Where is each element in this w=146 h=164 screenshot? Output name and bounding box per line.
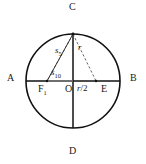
point-label-f-subscript: 1 (44, 89, 47, 96)
point-label-d: D (69, 146, 76, 156)
point-dot-e (95, 80, 97, 82)
point-label-o: O (65, 84, 72, 94)
radius-label: r (78, 43, 82, 52)
decagon-side-label-subscript: 10 (55, 72, 62, 79)
point-label-e: E (101, 84, 107, 94)
point-dot-f (46, 80, 48, 82)
geometry-figure: A B C D O E F1 r r/2 s5 s10 (0, 0, 146, 164)
point-dot-c (72, 33, 75, 36)
point-label-c: C (69, 2, 76, 12)
chord-ce-dashed-line (73, 34, 96, 81)
figure-canvas (0, 0, 146, 164)
point-label-b: B (130, 73, 137, 83)
pentagon-side-label-subscript: 5 (59, 50, 62, 57)
pentagon-side-label: s5 (55, 46, 62, 57)
decagon-side-label: s10 (51, 68, 61, 79)
half-radius-label: r/2 (77, 84, 88, 93)
radius-label-base: r (78, 42, 82, 52)
point-label-f: F1 (38, 84, 47, 97)
point-label-a: A (7, 73, 14, 83)
half-radius-label-suffix: /2 (81, 83, 88, 93)
